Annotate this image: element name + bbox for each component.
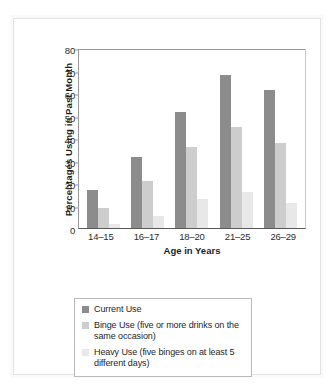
x-axis-ticks: 14–1516–1718–2021–2526–29: [78, 231, 306, 242]
legend: Current UseBinge Use (five or more drink…: [74, 298, 252, 377]
bar[interactable]: [87, 190, 98, 228]
bar[interactable]: [264, 90, 275, 228]
bar[interactable]: [197, 199, 208, 228]
chart-card: Percentages Using in Past Month 01020304…: [13, 18, 321, 375]
y-tick-label: 70: [65, 67, 75, 78]
bar-group: [87, 50, 120, 228]
bar[interactable]: [109, 224, 120, 229]
bar-group: [220, 50, 253, 228]
legend-swatch-icon: [82, 349, 89, 356]
x-tick-label: 26–29: [263, 231, 303, 242]
bar[interactable]: [131, 157, 142, 228]
plot-area: 01020304050607080: [78, 49, 306, 229]
legend-item-label: Binge Use (five or more drinks on the sa…: [94, 320, 244, 343]
bar[interactable]: [175, 112, 186, 228]
bar[interactable]: [98, 208, 109, 228]
x-tick-label: 16–17: [126, 231, 166, 242]
legend-item[interactable]: Binge Use (five or more drinks on the sa…: [82, 320, 244, 343]
bar-group: [175, 50, 208, 228]
x-tick-label: 14–15: [81, 231, 121, 242]
y-tick-label: 30: [65, 157, 75, 168]
bar[interactable]: [231, 127, 242, 228]
figure-container: Percentages Using in Past Month 01020304…: [0, 0, 332, 390]
bar-groups: [79, 50, 305, 228]
bar[interactable]: [275, 143, 286, 229]
y-tick-label: 60: [65, 90, 75, 101]
bar[interactable]: [142, 181, 153, 228]
bar[interactable]: [286, 203, 297, 228]
y-tick-label: 40: [65, 135, 75, 146]
legend-item[interactable]: Heavy Use (five binges on at least 5 dif…: [82, 347, 244, 370]
y-tick-label: 80: [65, 45, 75, 56]
x-tick-label: 21–25: [218, 231, 258, 242]
y-tick-label: 50: [65, 112, 75, 123]
y-tick-label: 10: [65, 202, 75, 213]
legend-item[interactable]: Current Use: [82, 304, 244, 316]
legend-swatch-icon: [82, 306, 89, 313]
bar-group: [264, 50, 297, 228]
y-tick-label: 0: [70, 225, 75, 236]
bar[interactable]: [242, 192, 253, 228]
bar[interactable]: [186, 147, 197, 228]
legend-item-label: Heavy Use (five binges on at least 5 dif…: [94, 347, 244, 370]
y-tick-label: 20: [65, 180, 75, 191]
legend-swatch-icon: [82, 322, 89, 329]
x-tick-label: 18–20: [172, 231, 212, 242]
plot-wrapper: Percentages Using in Past Month 01020304…: [66, 49, 306, 249]
x-axis-title: Age in Years: [78, 245, 306, 256]
bar-group: [131, 50, 164, 228]
bar[interactable]: [220, 75, 231, 228]
legend-item-label: Current Use: [94, 304, 141, 316]
bar[interactable]: [153, 216, 164, 228]
